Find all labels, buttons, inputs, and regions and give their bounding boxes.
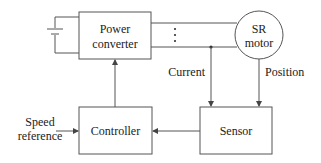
speed-reference-label-line2: reference [18,129,63,143]
power-converter-label-line1: Power [100,22,131,36]
phase-lines [151,23,237,47]
sensor-block: Sensor [200,107,272,154]
sr-motor-drive-diagram: Power converter SR motor Current Positio… [0,0,321,163]
dc-source-battery-icon [47,17,79,53]
controller-block: Controller [79,107,152,154]
sr-motor-block: SR motor [235,11,283,59]
speed-reference-label-line1: Speed [25,115,54,129]
current-label: Current [168,65,205,79]
power-converter-block: Power converter [79,12,151,59]
motor-label-line1: SR [252,22,267,36]
motor-label-line2: motor [245,36,274,50]
controller-label: Controller [91,124,140,138]
position-label: Position [265,65,304,79]
power-converter-label-line2: converter [92,37,137,51]
ellipsis-dots-icon [174,28,176,42]
sensor-label: Sensor [220,124,253,138]
